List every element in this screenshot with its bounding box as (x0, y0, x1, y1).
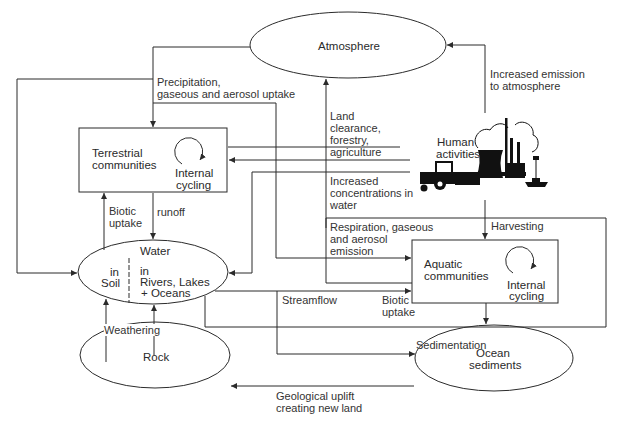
nutrient-cycle-diagram (0, 0, 618, 433)
increased-emission-label-line1: Increased emission (490, 68, 585, 80)
harvesting-label: Harvesting (491, 220, 544, 232)
water-soil-line2: Soil (101, 277, 120, 289)
terrestrial-cycling-line2: cycling (176, 179, 211, 191)
geological-uplift-label-line2: creating new land (276, 402, 362, 414)
human-activities-line1: Human (437, 136, 474, 148)
runoff-label: runoff (157, 206, 185, 218)
terrestrial-label-line2: communities (92, 159, 157, 171)
increased-concentrations-label-line1: Increased (330, 175, 378, 187)
biotic-uptake-terrestrial-line2: uptake (109, 217, 142, 229)
aquatic-cycling-line2: cycling (509, 290, 544, 302)
land-clearance-label-line4: agriculture (330, 146, 381, 158)
biotic-uptake-aquatic-line2: uptake (382, 306, 415, 318)
aquatic-internal-cycling-icon (506, 247, 534, 273)
geological-uplift-label-line1: Geological uplift (276, 390, 354, 402)
increased-emission-label-line2: to atmosphere (490, 80, 560, 92)
precipitation-label-line2: gaseous and aerosol uptake (157, 88, 295, 100)
aquatic-label-line2: communities (424, 270, 489, 282)
terrestrial-cycling-line1: Internal (175, 167, 213, 179)
human-activities-line2: activities (436, 148, 480, 160)
water-rivers-line3: + Oceans (141, 287, 191, 299)
weathering-label: Weathering (104, 324, 160, 336)
ocean-sediments-line2: sediments (469, 359, 521, 371)
respiration-label-line2: and aerosol (330, 233, 388, 245)
precipitation-label-line1: Precipitation, (157, 76, 221, 88)
water-title: Water (140, 245, 170, 257)
land-clearance-label-line2: clearance, (330, 122, 381, 134)
precipitation-to-water-flow (17, 79, 153, 273)
sedimentation-label: Sedimentation (416, 339, 486, 351)
biotic-uptake-terrestrial-line1: Biotic (109, 205, 136, 217)
increased-emission-flow (447, 45, 485, 113)
terrestrial-label-line1: Terrestrial (92, 147, 142, 159)
atmosphere-label: Atmosphere (318, 40, 380, 52)
biotic-uptake-aquatic-line1: Biotic (382, 294, 409, 306)
land-clearance-label-line1: Land (330, 110, 354, 122)
rock-label: Rock (143, 351, 169, 363)
streamflow-label: Streamflow (282, 294, 337, 306)
aquatic-label-line1: Aquatic (424, 258, 462, 270)
increased-concentrations-label-line3: water (330, 199, 357, 211)
increased-concentrations-label-line2: concentrations in (330, 187, 413, 199)
respiration-label-line1: Respiration, gaseous (330, 221, 433, 233)
terrestrial-internal-cycling-icon (175, 138, 203, 164)
respiration-label-line3: emission (330, 245, 373, 257)
land-clearance-label-line3: forestry, (330, 134, 369, 146)
